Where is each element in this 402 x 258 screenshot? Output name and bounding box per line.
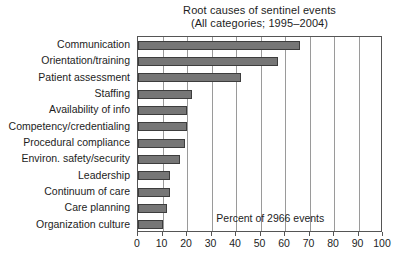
- x-tick-label: 20: [180, 237, 192, 249]
- bar: [138, 106, 187, 115]
- category-label: Communication: [0, 36, 133, 52]
- category-axis-labels: CommunicationOrientation/trainingPatient…: [0, 36, 133, 232]
- x-tick-label: 80: [327, 237, 339, 249]
- x-tick: [260, 232, 261, 236]
- x-tick-label: 90: [352, 237, 364, 249]
- bar: [138, 41, 300, 50]
- bar: [138, 73, 241, 82]
- x-tick: [186, 232, 187, 236]
- category-label: Environ. safety/security: [0, 150, 133, 166]
- plot-area: Percent of 2966 events: [137, 36, 382, 232]
- x-axis-tick-labels: 0102030405060708090100: [0, 237, 402, 253]
- category-label: Orientation/training: [0, 52, 133, 68]
- category-label: Patient assessment: [0, 69, 133, 85]
- x-tick-label: 100: [373, 237, 391, 249]
- x-tick: [137, 232, 138, 236]
- x-tick-label: 50: [254, 237, 266, 249]
- chart-subtitle: (All categories; 1995–2004): [137, 17, 382, 30]
- bar-row: [138, 37, 381, 53]
- bar-row: [138, 53, 381, 69]
- chart-annotation: Percent of 2966 events: [216, 212, 324, 224]
- bar: [138, 90, 192, 99]
- x-tick-label: 60: [278, 237, 290, 249]
- bar-row: [138, 151, 381, 167]
- x-tick: [162, 232, 163, 236]
- bar: [138, 204, 167, 213]
- category-label: Availability of info: [0, 101, 133, 117]
- chart-title-block: Root causes of sentinel events (All cate…: [137, 4, 382, 30]
- x-tick: [333, 232, 334, 236]
- bar: [138, 155, 180, 164]
- x-tick: [382, 232, 383, 236]
- x-tick: [358, 232, 359, 236]
- x-tick: [235, 232, 236, 236]
- category-label: Competency/credentialing: [0, 118, 133, 134]
- bar-row: [138, 119, 381, 135]
- bar: [138, 188, 170, 197]
- bar: [138, 139, 185, 148]
- x-tick-label: 70: [303, 237, 315, 249]
- category-label: Care planning: [0, 199, 133, 215]
- category-label: Continuum of care: [0, 183, 133, 199]
- bar-row: [138, 70, 381, 86]
- bar: [138, 57, 278, 66]
- category-label: Procedural compliance: [0, 134, 133, 150]
- bar-row: [138, 102, 381, 118]
- x-tick-label: 30: [205, 237, 217, 249]
- bar-row: [138, 184, 381, 200]
- x-tick-label: 40: [229, 237, 241, 249]
- category-label: Staffing: [0, 85, 133, 101]
- bar-row: [138, 135, 381, 151]
- bar-row: [138, 168, 381, 184]
- x-tick-label: 0: [134, 237, 140, 249]
- x-tick: [284, 232, 285, 236]
- bar-chart: Root causes of sentinel events (All cate…: [0, 0, 402, 258]
- x-tick: [211, 232, 212, 236]
- x-tick-label: 10: [156, 237, 168, 249]
- x-tick: [309, 232, 310, 236]
- category-label: Leadership: [0, 167, 133, 183]
- bar: [138, 171, 170, 180]
- bars-layer: [138, 37, 381, 231]
- bar-row: [138, 86, 381, 102]
- bar: [138, 122, 187, 131]
- category-label: Organization culture: [0, 216, 133, 232]
- page-title: Root causes of sentinel events: [137, 4, 382, 17]
- bar: [138, 220, 163, 229]
